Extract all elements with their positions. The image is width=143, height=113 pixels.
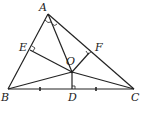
segment-bo <box>8 72 72 89</box>
side-ab <box>8 14 48 89</box>
label-e: E <box>18 41 27 54</box>
label-f: F <box>94 41 103 54</box>
label-o: O <box>66 55 75 68</box>
label-c: C <box>131 91 140 104</box>
right-angle-mark-e <box>32 46 35 51</box>
triangle-diagram: A B C D E F O <box>0 0 143 113</box>
label-d: D <box>67 91 77 104</box>
label-a: A <box>38 1 47 14</box>
label-b: B <box>0 91 9 104</box>
point-o <box>71 71 73 73</box>
